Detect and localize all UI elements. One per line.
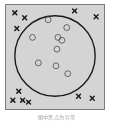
data-point-outlier (15, 27, 19, 31)
plot-frame (5, 4, 105, 110)
figure-caption-row: 图中黑点为异常 (0, 111, 113, 123)
scatter-plot-svg (6, 5, 104, 109)
data-point-outlier (23, 16, 27, 20)
series-outliers (11, 9, 98, 104)
data-point-outlier (27, 100, 31, 104)
data-point-inlier (64, 25, 70, 31)
data-point-outlier (77, 94, 81, 98)
data-point-outlier (11, 98, 15, 102)
series-inliers (30, 17, 71, 77)
data-point-outlier (73, 9, 77, 13)
data-point-outlier (17, 89, 21, 93)
data-point-inlier (45, 17, 51, 23)
data-point-outlier (21, 98, 25, 102)
data-point-inlier (59, 37, 65, 43)
figure-caption-text: 图中黑点为异常 (38, 114, 76, 120)
data-point-outlier (94, 15, 98, 19)
data-point-inlier (35, 60, 41, 66)
data-point-inlier (53, 63, 59, 69)
data-point-outlier (90, 96, 94, 100)
data-point-inlier (30, 34, 36, 40)
data-point-inlier (55, 34, 61, 40)
data-point-outlier (13, 11, 17, 15)
data-point-inlier (54, 46, 60, 52)
cluster-boundary-circle (15, 16, 95, 96)
figure-root: 图中黑点为异常 (0, 0, 113, 123)
data-point-inlier (65, 71, 71, 77)
